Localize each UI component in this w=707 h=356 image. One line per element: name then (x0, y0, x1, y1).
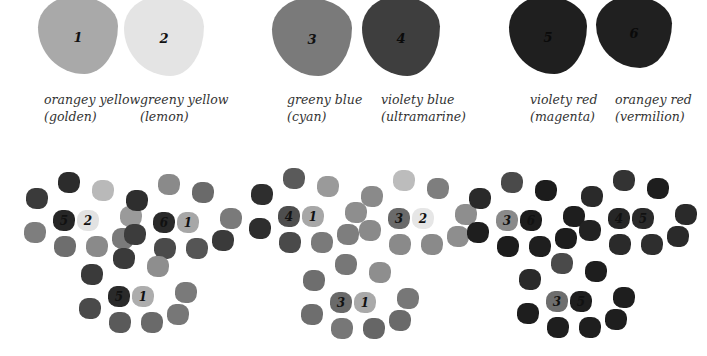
mix-dab-b: 2 (412, 208, 434, 229)
paint-dab (58, 172, 80, 193)
paint-dab (249, 218, 271, 239)
paint-dab (124, 224, 146, 245)
color-alt-name: (vermilion) (615, 108, 692, 125)
color-alt-name: (lemon) (140, 108, 229, 125)
mix-number-b: 1 (139, 289, 147, 303)
paint-dab (467, 222, 489, 243)
mix-dab-a: 6 (153, 212, 175, 233)
mix-number-b: 2 (419, 211, 427, 225)
paint-dab (585, 261, 607, 282)
paint-dab (92, 180, 114, 201)
paint-dab (337, 224, 359, 245)
paint-dab (605, 309, 627, 330)
primary-label: greeny blue(cyan) (287, 91, 362, 125)
paint-dab (547, 317, 569, 338)
paint-dab (54, 236, 76, 257)
mix-number-b: 1 (361, 295, 369, 309)
mix-dab-a: 4 (278, 206, 300, 227)
paint-dab (303, 270, 325, 291)
paint-dab (469, 188, 491, 209)
paint-dab (109, 312, 131, 333)
paint-dab (251, 184, 273, 205)
paint-dab (24, 222, 46, 243)
paint-dab (497, 236, 519, 257)
primary-swatch: 5 (509, 0, 587, 74)
mix-number-b: 1 (184, 215, 192, 229)
color-name: violety red (530, 91, 597, 108)
paint-dab (283, 168, 305, 189)
color-alt-name: (golden) (44, 108, 140, 125)
mix-dab-a: 3 (546, 291, 568, 312)
color-name: orangey yellow (44, 91, 140, 108)
mix-number-a: 6 (160, 215, 168, 229)
primary-label: violety red(magenta) (530, 91, 597, 125)
paint-dab (317, 176, 339, 197)
swatch-number: 6 (629, 26, 638, 41)
paint-dab (141, 312, 163, 333)
mix-dab-b: 6 (520, 210, 542, 231)
paint-dab (359, 220, 381, 241)
mix-dab-b: 5 (570, 291, 592, 312)
mix-number-a: 3 (553, 294, 561, 308)
paint-dab (311, 232, 333, 253)
mix-number-a: 3 (395, 211, 403, 225)
mix-dab-a: 5 (108, 286, 130, 307)
mix-dab-a: 3 (388, 208, 410, 229)
primary-label: violety blue(ultramarine) (381, 91, 466, 125)
primary-swatch: 4 (362, 0, 440, 76)
paint-dab (175, 282, 197, 303)
mix-dab-b: 1 (354, 292, 376, 313)
paint-dab (667, 226, 689, 247)
color-alt-name: (magenta) (530, 108, 597, 125)
paint-dab (363, 318, 385, 339)
mix-number-a: 3 (337, 295, 345, 309)
mix-dab-b: 1 (132, 286, 154, 307)
paint-dab (519, 269, 541, 290)
mix-number-b: 2 (84, 213, 92, 227)
mix-number-b: 1 (309, 209, 317, 223)
paint-dab (26, 188, 48, 209)
paint-dab (86, 236, 108, 257)
paint-dab (79, 298, 101, 319)
paint-dab (535, 180, 557, 201)
mix-dab-b: 5 (632, 208, 654, 229)
mix-dab-a: 5 (53, 210, 75, 231)
paint-dab (361, 186, 383, 207)
paint-dab (609, 234, 631, 255)
paint-dab (335, 254, 357, 275)
paint-dab (220, 208, 242, 229)
mix-dab-b: 1 (302, 206, 324, 227)
color-name: greeny blue (287, 91, 362, 108)
mix-number-b: 5 (639, 211, 647, 225)
primary-swatch: 6 (596, 0, 672, 68)
paint-dab (447, 226, 469, 247)
paint-dab (81, 264, 103, 285)
paint-dab (555, 228, 577, 249)
paint-dab (647, 178, 669, 199)
paint-dab (641, 234, 663, 255)
paint-dab (279, 232, 301, 253)
mix-number-a: 5 (60, 213, 68, 227)
color-alt-name: (cyan) (287, 108, 362, 125)
swatch-number: 1 (73, 29, 82, 44)
mix-dab-a: 3 (330, 292, 352, 313)
paint-dab (301, 304, 323, 325)
primary-swatch: 3 (272, 0, 352, 76)
paint-dab (331, 318, 353, 339)
paint-dab (192, 182, 214, 203)
paint-dab (613, 287, 635, 308)
mix-dab-a: 3 (496, 210, 518, 231)
primary-label: orangey yellow(golden) (44, 91, 140, 125)
swatch-number: 2 (159, 30, 168, 45)
paint-dab (613, 170, 635, 191)
paint-dab (126, 190, 148, 211)
paint-dab (579, 317, 601, 338)
primary-label: orangey red(vermilion) (615, 91, 692, 125)
paint-dab (158, 174, 180, 195)
paint-dab (393, 170, 415, 191)
paint-dab (369, 262, 391, 283)
primary-swatch: 1 (38, 0, 118, 74)
paint-dab (397, 288, 419, 309)
paint-dab (421, 234, 443, 255)
color-name: violety blue (381, 91, 466, 108)
